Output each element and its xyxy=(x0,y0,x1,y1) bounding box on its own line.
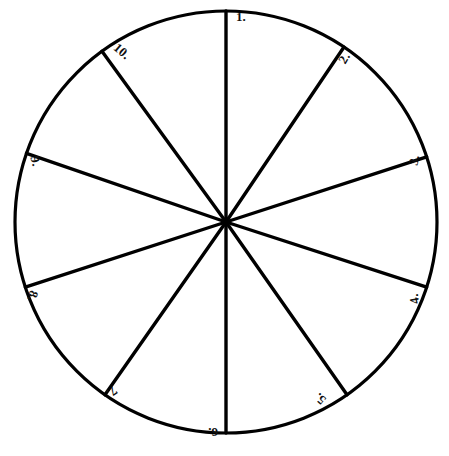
pie-chart-figure xyxy=(0,0,449,456)
sector-label-6: 6. xyxy=(208,426,218,439)
sector-label-1: 1. xyxy=(236,10,246,23)
pie-chart-page: 1. 2. 3. 4. 5. 6. 7. 8. 9. 10. xyxy=(0,0,449,456)
